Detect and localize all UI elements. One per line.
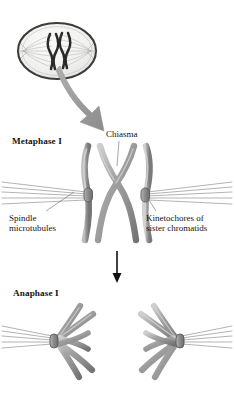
kinetochore-right (141, 188, 150, 202)
anaphase-chromosome-right (141, 306, 184, 377)
label-anaphase-i: Anaphase I (13, 288, 59, 298)
anaphase-kinetochore-right (176, 334, 184, 348)
kinetochore-left (84, 188, 93, 202)
spindle-microtubules-left (2, 182, 86, 204)
label-kinetochores: Kinetochores of sister chromatids (146, 213, 207, 233)
label-spindle-line1: Spindle (9, 213, 56, 223)
anaphase-detail-panel (2, 306, 232, 377)
zoom-arrow (56, 66, 104, 131)
zoom-arrow-shape (56, 66, 104, 131)
label-kinetochores-line1: Kinetochores of (146, 213, 207, 223)
meiosis-figure (0, 0, 234, 402)
anaphase-chromosome-left (50, 306, 93, 377)
label-chiasma: Chiasma (106, 129, 138, 139)
transition-arrow (113, 251, 122, 283)
anaphase-spindle-left (2, 326, 52, 348)
label-spindle-microtubules: Spindle microtubules (9, 213, 56, 233)
leader-chiasma (117, 141, 119, 166)
label-metaphase-i: Metaphase I (12, 136, 62, 146)
anaphase-kinetochore-left (50, 334, 58, 348)
label-spindle-line2: microtubules (9, 223, 56, 233)
anaphase-spindle-right (182, 326, 232, 348)
label-kinetochores-line2: sister chromatids (146, 223, 207, 233)
spindle-microtubules-right (148, 182, 232, 204)
